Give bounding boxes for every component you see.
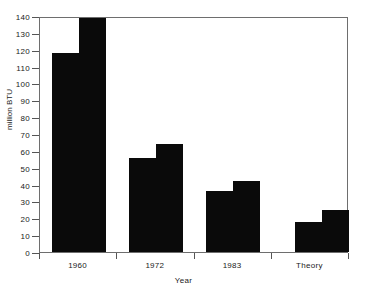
y-axis-tick-label: 140 (4, 13, 30, 22)
y-axis-tick (32, 135, 39, 136)
y-axis-tick (32, 152, 39, 153)
y-axis-tick (32, 169, 39, 170)
y-axis-tick-label: 130 (4, 29, 30, 38)
y-axis-tick-label: 0 (4, 249, 30, 258)
y-axis-tick (32, 118, 39, 119)
bar (233, 181, 260, 252)
y-axis-tick (32, 236, 39, 237)
bar (156, 144, 183, 252)
y-axis-tick (32, 186, 39, 187)
plot-area (39, 17, 348, 253)
y-axis-tick (32, 253, 39, 254)
y-axis-tick-label: 30 (4, 198, 30, 207)
y-axis-tick (32, 17, 39, 18)
x-axis-tick (194, 253, 195, 259)
y-axis-tick-label: 40 (4, 181, 30, 190)
y-axis-tick-label: 10 (4, 232, 30, 241)
x-axis-tick (39, 253, 40, 259)
bar (129, 158, 156, 252)
y-axis-tick (32, 202, 39, 203)
x-axis-category-label: 1960 (68, 261, 87, 270)
y-axis-tick-label: 50 (4, 164, 30, 173)
x-axis-category-label: 1972 (145, 261, 164, 270)
bar (52, 53, 79, 252)
bars-layer (40, 18, 347, 252)
x-axis-category-label: 1983 (223, 261, 242, 270)
bar (322, 210, 349, 252)
y-axis-tick-label: 20 (4, 215, 30, 224)
y-axis-tick (32, 51, 39, 52)
x-axis-tick (116, 253, 117, 259)
x-axis-title: Year (0, 276, 367, 285)
x-axis-tick (348, 253, 349, 259)
y-axis-tick (32, 101, 39, 102)
chart-page: 0102030405060708090100110120130140 milli… (0, 0, 367, 289)
y-axis-tick (32, 34, 39, 35)
y-axis-tick (32, 219, 39, 220)
y-axis-tick-label: 120 (4, 46, 30, 55)
y-axis-tick (32, 84, 39, 85)
bar (206, 191, 233, 252)
x-axis-tick (271, 253, 272, 259)
bar (79, 18, 106, 252)
x-axis-category-label: Theory (296, 261, 323, 270)
y-axis-tick (32, 68, 39, 69)
y-axis-title: million BTU (5, 70, 14, 150)
bar (295, 222, 322, 252)
